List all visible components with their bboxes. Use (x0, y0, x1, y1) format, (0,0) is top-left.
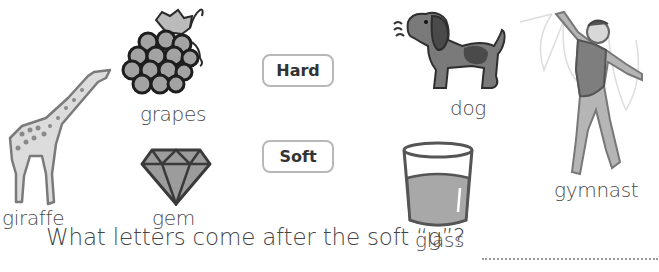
grapes-picture[interactable] (108, 2, 208, 102)
dog-icon (392, 6, 510, 96)
gem-picture[interactable] (138, 140, 214, 206)
answer-line[interactable] (482, 258, 658, 260)
dog-picture[interactable] (392, 6, 510, 96)
hard-category-button[interactable]: Hard (262, 54, 334, 87)
soft-category-button[interactable]: Soft (262, 140, 334, 173)
giraffe-icon (2, 64, 114, 214)
glass-icon (400, 140, 476, 228)
picture-label-dog: dog (450, 96, 486, 120)
question-text: What letters come after the soft “g”? (46, 224, 465, 250)
picture-label-grapes: grapes (140, 102, 206, 126)
picture-label-gymnast: gymnast (554, 178, 638, 202)
gymnast-icon (516, 0, 656, 182)
gem-icon (138, 140, 214, 206)
grapes-icon (108, 2, 208, 102)
giraffe-picture[interactable] (2, 64, 114, 214)
glass-picture[interactable] (400, 140, 476, 228)
gymnast-picture[interactable] (516, 0, 656, 182)
